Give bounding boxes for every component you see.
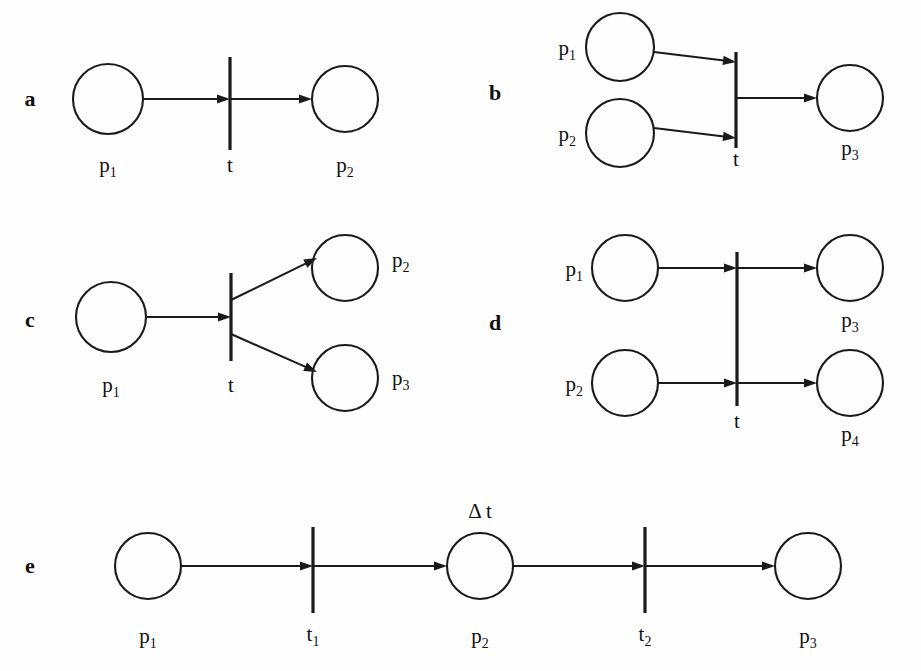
delay-label: Δ t bbox=[468, 499, 492, 523]
place-e-p2 bbox=[447, 533, 513, 599]
place-d-p1 bbox=[592, 235, 658, 301]
petri-net-figure: ap1p2tbp1p2p3tcp1p2p3tdp1p2p3p4tep1p2p3t… bbox=[0, 0, 921, 671]
transition-label-e-t2: t2 bbox=[639, 622, 652, 649]
place-e-p3 bbox=[775, 533, 841, 599]
arrow-head-icon bbox=[724, 263, 737, 272]
arrow-head-icon bbox=[218, 312, 231, 321]
arrow-head-icon bbox=[217, 94, 230, 103]
arrow-head-icon bbox=[804, 378, 817, 387]
panel-a: ap1p2t bbox=[25, 57, 379, 180]
place-label-e-p1: p1 bbox=[139, 624, 157, 651]
transition-label-d-t: t bbox=[734, 409, 740, 433]
transition-label-e-t1: t1 bbox=[307, 622, 320, 649]
place-d-p2 bbox=[592, 350, 658, 416]
arc-b-arc-t-p3 bbox=[736, 93, 817, 102]
arc-e-arc-p2-t2 bbox=[513, 561, 645, 570]
arc-e-arc-t2-p3 bbox=[645, 561, 775, 570]
arc-e-arc-t1-p2 bbox=[313, 561, 447, 570]
arc-b-arc-p2-t bbox=[654, 128, 736, 141]
place-label-a-p2: p2 bbox=[336, 153, 354, 180]
arc-shaft bbox=[654, 52, 726, 61]
arc-e-arc-p1-t1 bbox=[181, 561, 313, 570]
panel-letter-e: e bbox=[25, 553, 35, 578]
place-label-c-p2: p2 bbox=[392, 248, 410, 275]
transition-label-b-t: t bbox=[733, 147, 739, 171]
arrow-head-icon bbox=[632, 561, 645, 570]
arc-b-arc-p1-t bbox=[654, 52, 736, 65]
arrow-head-icon bbox=[303, 258, 317, 268]
panel-letter-d: d bbox=[489, 310, 501, 335]
place-b-p3 bbox=[817, 65, 883, 131]
place-label-e-p3: p3 bbox=[799, 624, 817, 651]
arc-a-arc-t-p2 bbox=[230, 94, 312, 103]
arc-c-arc-t-p3 bbox=[231, 334, 317, 372]
arc-a-arc-p1-t bbox=[143, 94, 230, 103]
arrow-head-icon bbox=[300, 561, 313, 570]
place-b-p2 bbox=[586, 99, 654, 167]
place-label-b-p3: p3 bbox=[841, 136, 859, 163]
place-d-p4 bbox=[817, 350, 883, 416]
arc-c-arc-p1-t bbox=[146, 312, 231, 321]
panel-letter-a: a bbox=[25, 86, 36, 111]
arc-d-arc-p1-t bbox=[658, 263, 737, 272]
place-label-d-p2: p2 bbox=[566, 372, 584, 399]
place-c-p1 bbox=[76, 282, 146, 352]
arc-shaft bbox=[231, 262, 308, 300]
petri-net-canvas: ap1p2tbp1p2p3tcp1p2p3tdp1p2p3p4tep1p2p3t… bbox=[0, 0, 921, 671]
transition-label-a-t: t bbox=[227, 153, 233, 177]
panel-letter-b: b bbox=[489, 80, 501, 105]
place-d-p3 bbox=[817, 235, 883, 301]
place-label-a-p1: p1 bbox=[99, 153, 117, 180]
place-label-d-p1: p1 bbox=[566, 257, 584, 284]
place-label-c-p3: p3 bbox=[392, 366, 410, 393]
arc-d-arc-p2-t bbox=[658, 378, 737, 387]
panel-e: ep1p2p3t1t2Δ t bbox=[25, 499, 841, 651]
arrow-head-icon bbox=[724, 378, 737, 387]
panel-letter-c: c bbox=[25, 307, 35, 332]
place-label-c-p1: p1 bbox=[102, 373, 120, 400]
panel-d: dp1p2p3p4t bbox=[489, 235, 883, 449]
place-label-b-p1: p1 bbox=[559, 36, 577, 63]
arc-c-arc-t-p2 bbox=[231, 258, 317, 300]
arrow-head-icon bbox=[804, 93, 817, 102]
place-label-b-p2: p2 bbox=[559, 122, 577, 149]
arrow-head-icon bbox=[723, 56, 736, 65]
place-label-e-p2: p2 bbox=[471, 624, 489, 651]
transition-label-c-t: t bbox=[228, 373, 234, 397]
panel-c: cp1p2p3t bbox=[25, 235, 409, 411]
place-label-d-p3: p3 bbox=[841, 308, 859, 335]
arrow-head-icon bbox=[723, 132, 736, 141]
place-c-p2 bbox=[312, 235, 378, 301]
arc-shaft bbox=[654, 128, 726, 137]
arrow-head-icon bbox=[434, 561, 447, 570]
arrow-head-icon bbox=[804, 263, 817, 272]
arrow-head-icon bbox=[299, 94, 312, 103]
place-a-p1 bbox=[73, 64, 143, 134]
place-b-p1 bbox=[586, 13, 654, 81]
place-label-d-p4: p4 bbox=[841, 422, 859, 449]
place-a-p2 bbox=[312, 66, 378, 132]
arc-shaft bbox=[231, 334, 308, 368]
panel-b: bp1p2p3t bbox=[489, 13, 883, 171]
arc-d-arc-t-p3 bbox=[737, 263, 817, 272]
arrow-head-icon bbox=[762, 561, 775, 570]
place-e-p1 bbox=[115, 533, 181, 599]
place-c-p3 bbox=[312, 345, 378, 411]
arc-d-arc-t-p4 bbox=[737, 378, 817, 387]
